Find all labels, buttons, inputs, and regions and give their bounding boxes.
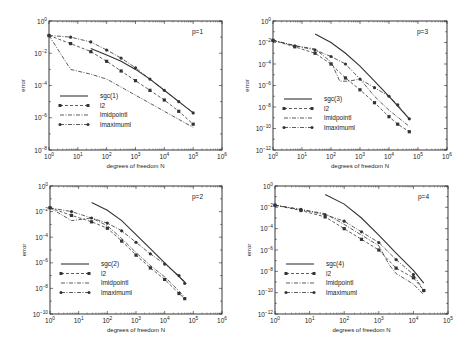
x-tick-label: 104: [160, 316, 170, 324]
circle-marker: [48, 206, 51, 209]
x-tick-label: 102: [326, 152, 336, 160]
square-marker: [313, 52, 316, 55]
series-lmaximuml: [271, 39, 411, 121]
y-tick-label: 10−2: [260, 203, 273, 211]
y-tick-label: 10−6: [34, 113, 47, 121]
square-marker: [119, 69, 122, 72]
circle-marker: [134, 241, 137, 244]
x-axis-title: degrees of freedom N: [106, 163, 164, 169]
legend-item: lmaximuml: [59, 121, 132, 128]
circle-marker: [377, 241, 380, 244]
circle-marker: [177, 100, 180, 103]
legend-item: lmaximuml: [283, 124, 356, 131]
legend-item: sgc(3): [284, 95, 342, 103]
legend-label: l2: [100, 102, 105, 109]
legend-label: l2: [324, 105, 329, 112]
circle-marker: [313, 48, 316, 51]
legend-item: l2: [285, 270, 332, 277]
circle-marker: [299, 208, 302, 211]
series-lmaximuml: [47, 34, 194, 115]
circle-marker: [293, 44, 296, 47]
x-tick-label: 101: [73, 152, 83, 160]
x-tick-label: 104: [159, 152, 169, 160]
chart-panel-p3: 10010110210310410510610010−210−410−610−8…: [244, 17, 452, 170]
x-tick-label: 100: [268, 152, 278, 160]
figure-canvas: 10010110210310410510610010−210−410−610−8…: [0, 0, 475, 348]
legend-label: l2: [101, 270, 106, 277]
circle-marker: [70, 210, 73, 213]
legend: sgc(2)l2lmidpointllmaximuml: [60, 260, 133, 296]
y-tick-label: 10−6: [258, 81, 271, 89]
legend-item: sgc(4): [286, 260, 344, 268]
y-tick-label: 10−8: [35, 284, 48, 292]
legend-label: lmaximuml: [101, 289, 133, 296]
square-marker: [343, 227, 346, 230]
circle-marker: [120, 229, 123, 232]
legend-label: lmidpointl: [326, 279, 354, 287]
legend-label: l2: [326, 270, 331, 277]
circle-marker: [412, 273, 415, 276]
square-marker: [344, 76, 347, 79]
y-tick-label: 100: [263, 182, 273, 190]
circle-marker: [183, 282, 186, 285]
circle-marker: [387, 95, 390, 98]
square-marker: [134, 254, 137, 257]
series-sgc4: [325, 195, 424, 284]
y-tick-label: 10−4: [34, 81, 47, 89]
legend: sgc(1)l2lmidpointllmaximuml: [59, 92, 132, 128]
square-marker: [360, 238, 363, 241]
x-tick-label: 100: [44, 152, 54, 160]
x-tick-label: 101: [74, 316, 84, 324]
panel-label: p=4: [418, 193, 429, 201]
circle-marker: [192, 111, 195, 114]
y-axis-title: error: [246, 244, 252, 257]
circle-marker: [408, 117, 411, 120]
x-tick-label: 104: [408, 316, 418, 324]
series-sgc1: [91, 48, 193, 113]
y-tick-label: 10−8: [258, 103, 271, 111]
circle-marker: [396, 103, 399, 106]
legend-label: lmidpointl: [324, 114, 352, 122]
circle-marker: [69, 36, 72, 39]
x-axis-title: degrees of freedom N: [331, 163, 389, 169]
x-tick-label: 105: [188, 316, 198, 324]
y-tick-label: 10−8: [260, 267, 273, 275]
circle-marker: [47, 34, 50, 37]
y-tick-label: 10−10: [258, 288, 274, 296]
legend-item: sgc(1): [60, 92, 118, 100]
chart-panel-p1: 10010110210310410510610010−210−410−610−8…: [20, 17, 227, 170]
legend-label: sgc(3): [324, 95, 342, 103]
circle-marker: [324, 213, 327, 216]
x-tick-label: 102: [102, 316, 112, 324]
x-axis-title: degrees of freedom N: [107, 327, 165, 333]
legend-label: lmidpointl: [101, 279, 129, 287]
legend-label: sgc(4): [326, 260, 344, 268]
legend-item: lmidpointl: [284, 114, 352, 122]
x-tick-label: 102: [339, 316, 349, 324]
panel-label: p=2: [192, 193, 203, 201]
y-tick-label: 100: [37, 17, 47, 25]
x-tick-label: 101: [297, 152, 307, 160]
x-axis-title: degrees of freedom N: [332, 327, 390, 333]
legend-label: sgc(2): [101, 260, 119, 268]
square-marker: [377, 248, 380, 251]
series-sgc3: [315, 34, 409, 119]
x-tick-label: 100: [45, 316, 55, 324]
x-tick-label: 103: [355, 152, 365, 160]
square-marker: [183, 297, 186, 300]
circle-marker: [90, 216, 93, 219]
square-marker: [69, 42, 72, 45]
y-tick-label: 10−6: [260, 246, 273, 254]
square-marker: [358, 88, 361, 91]
square-marker: [387, 115, 390, 118]
x-tick-label: 100: [270, 316, 280, 324]
circle-marker: [105, 48, 108, 51]
circle-marker: [148, 77, 151, 80]
y-tick-label: 10−6: [35, 258, 48, 266]
x-tick-label: 106: [217, 152, 227, 160]
square-marker: [408, 130, 411, 133]
circle-marker: [177, 274, 180, 277]
chart-panel-p4: 10010110210310410510010−210−410−610−810−…: [246, 182, 453, 334]
y-tick-label: 10−2: [34, 49, 47, 57]
legend-item: l2: [59, 102, 106, 109]
